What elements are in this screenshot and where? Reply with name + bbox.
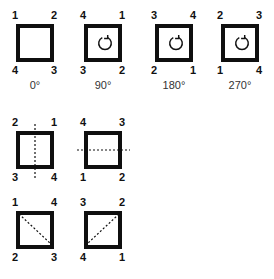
corner-label: 1	[80, 172, 86, 183]
anti-diagonal-figure: 3 2 4 1	[68, 197, 138, 277]
rotation-0-figure: 1 2 4 3 0°	[0, 10, 70, 90]
corner-label: 3	[80, 65, 86, 76]
horizontal-flip-figure: 4 3 1 2	[68, 117, 138, 197]
corner-label: 2	[12, 252, 18, 263]
vertical-flip-figure: 2 1 3 4	[0, 117, 70, 197]
corner-label: 3	[51, 252, 57, 263]
corner-label: 4	[12, 65, 18, 76]
corner-label: 2	[51, 10, 57, 21]
corner-label: 1	[119, 10, 125, 21]
rotate-clockwise-icon	[167, 34, 185, 52]
corner-label: 4	[51, 172, 57, 183]
anti-diagonal-dashed-line	[68, 197, 138, 277]
corner-label: 1	[190, 65, 196, 76]
corner-label: 4	[256, 65, 262, 76]
angle-label: 180°	[139, 79, 209, 91]
square	[155, 24, 193, 62]
angle-label: 270°	[205, 79, 274, 91]
corner-label: 1	[119, 252, 125, 263]
square	[16, 24, 54, 62]
corner-label: 3	[151, 10, 157, 21]
corner-label: 3	[51, 65, 57, 76]
rotation-90-figure: 4 1 3 2 90°	[68, 10, 138, 90]
main-diagonal-figure: 1 4 2 3	[0, 197, 70, 277]
rotation-180-figure: 3 4 2 1 180°	[139, 10, 209, 90]
corner-label: 1	[217, 65, 223, 76]
corner-label: 2	[119, 172, 125, 183]
square	[221, 24, 259, 62]
corner-label: 3	[256, 10, 262, 21]
rotation-270-figure: 2 3 1 4 270°	[205, 10, 274, 90]
corner-label: 4	[190, 10, 196, 21]
horizontal-axis-dashed-line	[68, 117, 138, 197]
corner-label: 4	[80, 252, 86, 263]
rotate-clockwise-icon	[96, 34, 114, 52]
corner-label: 4	[80, 10, 86, 21]
rotate-clockwise-icon	[233, 34, 251, 52]
corner-label: 2	[217, 10, 223, 21]
corner-label: 3	[12, 172, 18, 183]
vertical-axis-dashed-line	[0, 117, 70, 197]
corner-label: 2	[151, 65, 157, 76]
corner-label: 1	[12, 10, 18, 21]
corner-label: 2	[119, 65, 125, 76]
angle-label: 0°	[0, 79, 70, 91]
diagonal-dashed-line	[0, 197, 70, 277]
square	[84, 24, 122, 62]
angle-label: 90°	[68, 79, 138, 91]
